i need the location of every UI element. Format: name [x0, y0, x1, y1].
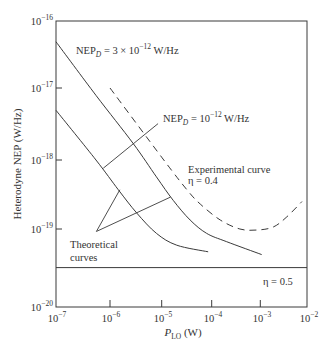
- y-tick-label: 10−20: [31, 299, 53, 313]
- nep-1e-12-label: NEPD = 10−12 W/Hz: [163, 110, 250, 127]
- x-tick-label: 10−6: [102, 310, 121, 324]
- nep-3e-12-label: NEPD = 3 × 10−12 W/Hz: [76, 42, 179, 59]
- series-group: [56, 42, 307, 268]
- y-axis-ticks: [56, 88, 62, 229]
- y-tick-labels: 10−16 10−17 10−18 10−19 10−20: [31, 13, 53, 313]
- x-tick-label: 10−5: [154, 310, 173, 324]
- x-tick-labels: 10−7 10−6 10−5 10−4 10−3 10−2: [48, 310, 319, 324]
- x-axis-title: PLO (W): [163, 326, 202, 341]
- x-tick-label: 10−4: [204, 310, 223, 324]
- x-tick-label: 10−3: [253, 310, 272, 324]
- x-axis-ticks: [110, 300, 260, 307]
- annotation-leaders: [96, 124, 170, 232]
- experimental-curve-eta-0-4: [110, 88, 302, 230]
- experimental-eta-label: η = 0.4: [188, 175, 219, 186]
- y-tick-label: 10−19: [31, 221, 53, 235]
- experimental-curve-label: Experimental curve: [188, 164, 271, 175]
- theoretical-curves-label-line2: curves: [70, 252, 97, 263]
- x-tick-label: 10−7: [48, 310, 67, 324]
- nep-vs-lo-power-chart: 10−16 10−17 10−18 10−19 10−20 10−7 10−6 …: [0, 0, 327, 352]
- nep-1e-12-leader-line: [103, 124, 158, 169]
- theoretical-leader-line-upper: [96, 197, 170, 231]
- theoretical-curve-nep-1e-12: [56, 110, 208, 252]
- y-axis-title: Heterodyne NEP (W/Hz): [11, 108, 24, 219]
- x-tick-label: 10−2: [300, 310, 319, 324]
- y-tick-label: 10−16: [31, 13, 53, 27]
- theoretical-curves-label-line1: Theoretical: [70, 239, 118, 250]
- eta-0-5-label: η = 0.5: [263, 276, 293, 287]
- theoretical-leader-line-lower: [96, 190, 119, 232]
- y-tick-label: 10−17: [31, 80, 53, 94]
- y-tick-label: 10−18: [31, 152, 53, 166]
